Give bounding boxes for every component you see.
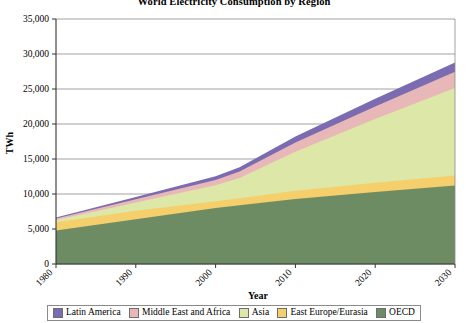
x-tick-label: 2010 bbox=[273, 267, 294, 288]
y-tick-label: 35,000 bbox=[23, 14, 49, 24]
y-tick-label: 25,000 bbox=[23, 84, 49, 94]
legend-label: OECD bbox=[389, 308, 415, 318]
x-tick-label: 2030 bbox=[433, 267, 454, 288]
y-tick-label: 5,000 bbox=[28, 224, 50, 234]
legend-label: Middle East and Africa bbox=[142, 308, 230, 318]
legend-item-latin-america[interactable]: Latin America bbox=[53, 308, 121, 318]
x-tick-label: 1980 bbox=[34, 267, 55, 288]
x-axis-ticks: 198019902000201020202030 bbox=[34, 264, 455, 288]
x-axis-title: Year bbox=[248, 290, 269, 301]
y-tick-label: 15,000 bbox=[23, 154, 49, 164]
chart-container: World Electricity Consumption by Region … bbox=[0, 0, 468, 323]
legend-label: East Europe/Eurasia bbox=[290, 308, 367, 318]
legend-label: Asia bbox=[252, 308, 269, 318]
x-tick-label: 2000 bbox=[194, 267, 215, 288]
chart-plot: 05,00010,00015,00020,00025,00030,00035,0… bbox=[0, 0, 468, 323]
legend-item-oecd[interactable]: OECD bbox=[376, 308, 415, 318]
x-tick-label: 2020 bbox=[353, 267, 374, 288]
x-tick-label: 1990 bbox=[114, 267, 135, 288]
y-axis-ticks: 05,00010,00015,00020,00025,00030,00035,0… bbox=[23, 14, 56, 269]
legend-swatch-icon bbox=[376, 308, 386, 318]
y-tick-label: 30,000 bbox=[23, 49, 49, 59]
legend-item-east-europe-eurasia[interactable]: East Europe/Eurasia bbox=[277, 308, 367, 318]
y-axis-title: TWh bbox=[4, 131, 15, 154]
legend-item-asia[interactable]: Asia bbox=[239, 308, 269, 318]
legend-swatch-icon bbox=[129, 308, 139, 318]
legend-swatch-icon bbox=[239, 308, 249, 318]
legend-item-middle-east-and-africa[interactable]: Middle East and Africa bbox=[129, 308, 230, 318]
legend-swatch-icon bbox=[53, 308, 63, 318]
legend-label: Latin America bbox=[66, 308, 121, 318]
legend-swatch-icon bbox=[277, 308, 287, 318]
y-tick-label: 10,000 bbox=[23, 189, 49, 199]
y-tick-label: 20,000 bbox=[23, 119, 49, 129]
chart-legend: Latin AmericaMiddle East and AfricaAsiaE… bbox=[47, 305, 421, 321]
area-series-group bbox=[56, 62, 455, 264]
